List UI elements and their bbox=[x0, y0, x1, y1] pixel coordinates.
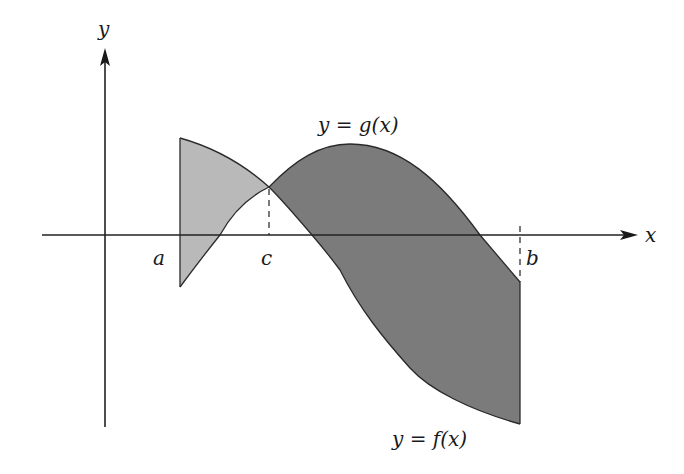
point-label-b: b bbox=[526, 246, 539, 270]
curve-label-g: y = g(x) bbox=[317, 113, 398, 137]
area-between-curves-diagram: y x a c b y = g(x) y = f(x) bbox=[0, 0, 684, 474]
curve-label-f: y = f(x) bbox=[391, 427, 467, 451]
region-c-to-b bbox=[269, 144, 520, 424]
y-axis-label: y bbox=[97, 17, 110, 41]
x-axis-label: x bbox=[645, 223, 656, 247]
point-label-c: c bbox=[261, 246, 272, 270]
point-label-a: a bbox=[153, 246, 165, 270]
region-a-to-c bbox=[180, 138, 269, 287]
